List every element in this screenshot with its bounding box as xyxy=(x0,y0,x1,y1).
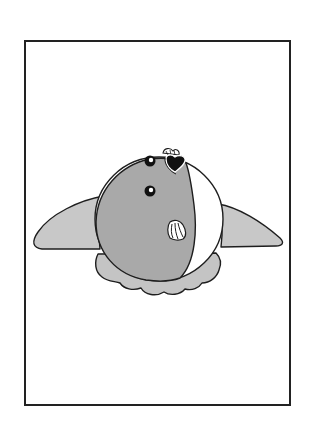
illustration-svg xyxy=(0,0,309,434)
lower-eye-icon xyxy=(145,186,156,197)
illustration-canvas: Cartoon round fish-like creature with tw… xyxy=(0,0,309,434)
top-eye-icon xyxy=(145,156,156,167)
